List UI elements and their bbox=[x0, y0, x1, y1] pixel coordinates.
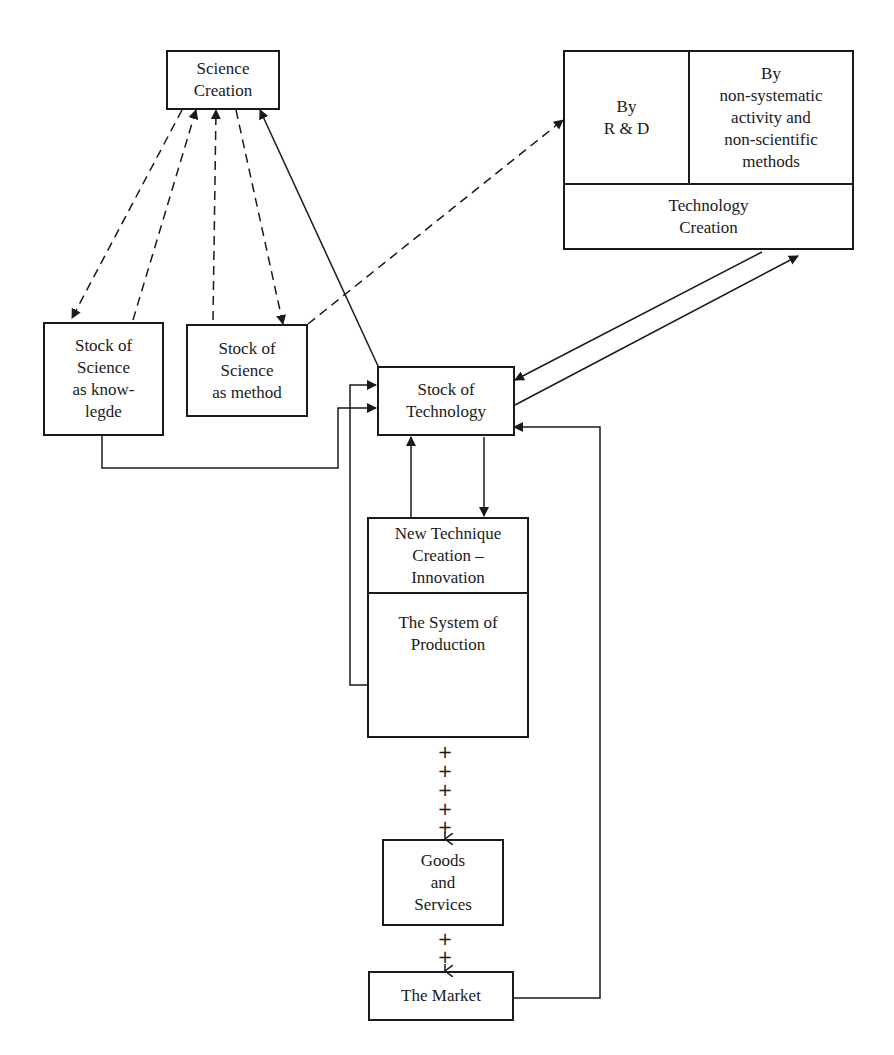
flow-plus: + bbox=[435, 781, 455, 799]
stock-technology-box: Stock of Technology bbox=[377, 366, 515, 436]
flow-plus: + bbox=[435, 948, 455, 966]
system-production-cell: The System of Production bbox=[369, 594, 527, 674]
goods-services-label: Goods and Services bbox=[414, 850, 472, 916]
stock-science-knowledge-label: Stock of Science as know- legde bbox=[73, 335, 135, 423]
production-system-box: New Technique Creation – Innovation The … bbox=[367, 517, 529, 738]
market-box: The Market bbox=[368, 971, 514, 1021]
stock-science-method-box: Stock of Science as method bbox=[186, 324, 308, 417]
stock-science-knowledge-box: Stock of Science as know- legde bbox=[43, 322, 164, 436]
flow-plus: + bbox=[435, 818, 455, 836]
market-label: The Market bbox=[401, 985, 481, 1007]
flow-plus: + bbox=[435, 743, 455, 761]
goods-services-box: Goods and Services bbox=[382, 839, 504, 926]
science-creation-box: Science Creation bbox=[166, 50, 280, 110]
by-rd-cell: By R & D bbox=[565, 52, 690, 185]
technology-creation-box: By R & D By non-systematic activity and … bbox=[563, 50, 854, 250]
system-production-label: The System of Production bbox=[398, 612, 497, 656]
by-nonsystematic-cell: By non-systematic activity and non-scien… bbox=[690, 52, 852, 185]
stock-science-method-label: Stock of Science as method bbox=[212, 338, 281, 404]
technology-creation-label: Technology Creation bbox=[668, 195, 748, 239]
new-technique-cell: New Technique Creation – Innovation bbox=[369, 519, 527, 594]
by-nonsystematic-label: By non-systematic activity and non-scien… bbox=[720, 63, 823, 173]
technology-creation-cell: Technology Creation bbox=[565, 185, 852, 248]
science-creation-label: Science Creation bbox=[194, 58, 253, 102]
by-rd-label: By R & D bbox=[604, 96, 649, 140]
flow-plus: + bbox=[435, 762, 455, 780]
stock-technology-label: Stock of Technology bbox=[406, 379, 486, 423]
new-technique-label: New Technique Creation – Innovation bbox=[395, 523, 502, 589]
